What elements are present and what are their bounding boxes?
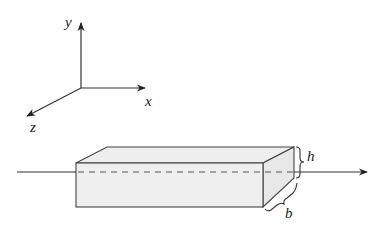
diagram-svg: y x z h b bbox=[0, 0, 385, 226]
beam bbox=[76, 147, 294, 207]
x-axis-label: x bbox=[144, 93, 152, 109]
beam-front-face bbox=[76, 163, 263, 207]
height-label: h bbox=[307, 148, 315, 164]
width-label: b bbox=[285, 205, 293, 221]
z-axis-label: z bbox=[29, 119, 36, 135]
beam-diagram: y x z h b bbox=[0, 0, 385, 226]
beam-top-face bbox=[76, 147, 294, 163]
height-brace bbox=[296, 147, 304, 178]
z-axis-arrow bbox=[27, 88, 81, 116]
coordinate-axes: y x z bbox=[27, 14, 152, 135]
y-axis-label: y bbox=[63, 14, 72, 30]
